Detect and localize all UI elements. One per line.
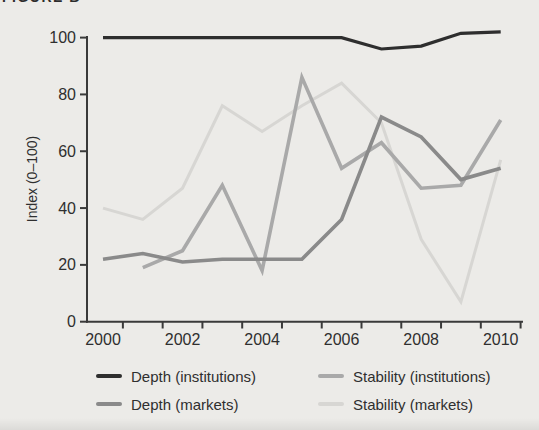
stability-markets-line-swatch [318,402,344,406]
x-tick-label: 2000 [85,331,121,348]
x-tick-label: 2002 [165,331,201,348]
figure-page: FIGURE B Index (0–100) 02040608010020002… [0,0,539,430]
x-tick-label: 2004 [244,331,280,348]
stability-institutions-line-swatch [318,374,344,378]
depth-markets-line-swatch [96,402,122,406]
legend-label-depth-markets: Depth (markets) [131,396,239,413]
series-line-depth-markets [103,117,501,262]
depth-institutions-line-swatch [96,374,122,378]
legend: Depth (institutions) Depth (markets) Sta… [96,366,491,414]
series-line-stability-markets [103,83,501,302]
y-tick-label: 60 [58,143,76,160]
x-tick-label: 2006 [324,331,360,348]
legend-item-stability-markets: Stability (markets) [318,394,491,414]
legend-label-stability-markets: Stability (markets) [353,396,473,413]
y-tick-label: 0 [67,313,76,330]
y-tick-label: 20 [58,256,76,273]
series-line-depth-institutions [103,32,501,49]
legend-item-stability-institutions: Stability (institutions) [318,366,491,386]
legend-item-depth-markets: Depth (markets) [96,394,318,414]
legend-label-stability-institutions: Stability (institutions) [353,368,491,385]
legend-label-depth-institutions: Depth (institutions) [131,368,256,385]
y-tick-label: 40 [58,200,76,217]
line-chart: 020406080100200020022004200620082010 [0,0,539,360]
x-tick-label: 2008 [403,331,439,348]
y-tick-label: 100 [49,29,76,46]
x-tick-label: 2010 [483,331,519,348]
y-tick-label: 80 [58,86,76,103]
legend-item-depth-institutions: Depth (institutions) [96,366,318,386]
